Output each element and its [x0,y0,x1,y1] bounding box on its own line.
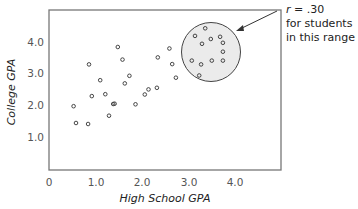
data-point [74,121,78,125]
data-point [174,76,178,80]
annotation-r-value: r = .30 [286,3,324,16]
data-point [86,122,90,126]
data-point [98,78,102,82]
annotation-line-3: in this range [286,31,355,44]
x-axis-label: High School GPA [120,192,211,205]
x-tick-4: 4.0 [227,176,244,188]
annotation-line-2: for students [286,17,353,30]
data-point [87,63,91,67]
y-tick-2: 2.0 [27,99,44,111]
data-point [72,104,76,108]
scatter-chart: r = .30 for students in this range 4.0 3… [0,0,358,209]
highlight-circle [182,23,241,82]
y-axis-label: College GPA [5,59,18,126]
data-point [156,56,160,60]
data-point [147,88,151,92]
annotation-arrow [236,11,277,31]
data-point [170,62,174,66]
y-tick-3: 3.0 [27,67,44,79]
x-tick-0: 0 [46,176,53,188]
x-tick-1: 1.0 [88,176,105,188]
data-point [104,92,108,96]
data-point [155,86,159,90]
data-point [123,82,127,86]
y-tick-4: 4.0 [27,36,44,48]
data-point [121,58,125,62]
x-tick-2: 2.0 [134,176,151,188]
plot-frame [49,10,281,170]
data-point [116,45,120,49]
y-tick-1: 1.0 [27,131,44,143]
data-point [168,47,172,51]
data-point [107,114,111,118]
data-point [143,93,147,97]
data-point [90,94,94,98]
x-tick-3: 3.0 [181,176,198,188]
data-point [128,74,132,78]
data-point [134,103,138,107]
